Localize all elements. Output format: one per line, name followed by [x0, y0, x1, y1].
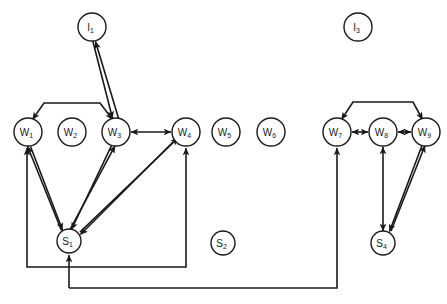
node-i3[interactable]: I3 — [344, 13, 372, 41]
node-subscript-w4: 4 — [187, 132, 191, 139]
node-w5[interactable]: W5 — [212, 118, 240, 146]
node-s1[interactable]: S1 — [57, 229, 81, 253]
edge-w9-to-s4 — [390, 146, 423, 232]
edge-w3-to-i1 — [96, 42, 119, 119]
node-i1[interactable]: I1 — [78, 13, 106, 41]
node-subscript-w3: 3 — [117, 132, 121, 139]
edge-s4-to-w9 — [391, 146, 425, 232]
node-w2[interactable]: W2 — [58, 118, 86, 146]
edge-bracket-w1-w3-left — [33, 103, 61, 120]
network-diagram: I1I3W1W2W3W4W5W6W7W8W9S1S2S4 — [0, 0, 447, 304]
node-subscript-i3: 3 — [356, 27, 360, 34]
edge-bracket-w7-w9-right — [383, 102, 423, 120]
edge-loop-s1-to-w4 — [69, 148, 186, 267]
node-w3[interactable]: W3 — [102, 118, 130, 146]
edge-s1-to-w3 — [70, 146, 115, 230]
node-subscript-w8: 8 — [384, 132, 388, 139]
node-w4[interactable]: W4 — [172, 118, 200, 146]
node-w6[interactable]: W6 — [257, 118, 285, 146]
node-subscript-w6: 6 — [272, 132, 276, 139]
edge-bracket-w1-w3-right — [60, 103, 113, 120]
edge-w1-to-s1 — [31, 147, 63, 231]
node-layer: I1I3W1W2W3W4W5W6W7W8W9S1S2S4 — [14, 13, 440, 255]
node-subscript-s1: 1 — [69, 241, 73, 248]
node-subscript-s4: 4 — [383, 243, 387, 250]
node-s2[interactable]: S2 — [211, 231, 235, 255]
node-s4[interactable]: S4 — [371, 231, 395, 255]
node-subscript-w1: 1 — [29, 132, 33, 139]
node-subscript-w5: 5 — [227, 132, 231, 139]
node-w9[interactable]: W9 — [412, 118, 440, 146]
node-subscript-w7: 7 — [338, 132, 342, 139]
node-subscript-i1: 1 — [90, 27, 94, 34]
edge-s1-to-w1 — [28, 146, 62, 230]
node-subscript-w2: 2 — [73, 132, 77, 139]
node-w7[interactable]: W7 — [323, 118, 351, 146]
edge-bracket-w7-w9-left — [342, 102, 384, 120]
node-w8[interactable]: W8 — [369, 118, 397, 146]
node-w1[interactable]: W1 — [14, 118, 42, 146]
node-subscript-w9: 9 — [427, 132, 431, 139]
node-subscript-s2: 2 — [223, 243, 227, 250]
